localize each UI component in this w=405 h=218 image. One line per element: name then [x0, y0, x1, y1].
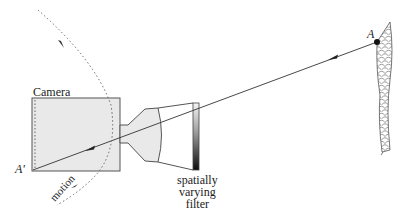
image-point-label: A' — [15, 163, 25, 175]
filter-label: spatially varying filter — [177, 174, 218, 210]
motion-arrow-top — [58, 40, 64, 48]
filter-label-line3: filter — [177, 198, 218, 210]
scene-surface-tail — [381, 152, 383, 155]
scene-point-label: A — [367, 28, 374, 40]
scene-point-a — [374, 39, 380, 45]
filter-hood — [158, 103, 193, 170]
camera-body — [32, 98, 120, 171]
diagram-canvas: Camera A' A spatially varying filter mot… — [0, 0, 405, 218]
camera-label: Camera — [33, 86, 70, 98]
ray-arrow-right — [328, 55, 338, 61]
spatially-varying-filter — [193, 103, 199, 170]
